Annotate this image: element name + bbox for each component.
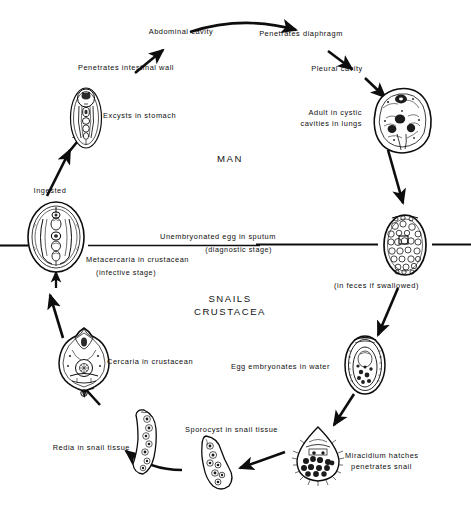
metacercaria-figure	[28, 202, 84, 272]
host-label-snails-crustacea: SNAILS CRUSTACEA	[180, 292, 280, 318]
sporocyst-figure	[202, 436, 232, 489]
arrow-to-metacercaria	[50, 295, 63, 338]
label-penetrates-intestinal-wall: Penetrates intestinal wall	[60, 63, 192, 74]
arrow-to-adult-lungs	[365, 78, 385, 97]
arrow-to-embryonating-egg	[378, 288, 398, 335]
arrow-to-egg	[388, 150, 403, 203]
label-adult-in-cystic-cavities: Adult in cystic cavities in lungs	[258, 108, 362, 129]
label-unembryonated-egg: Unembryonated egg in sputum (diagnostic …	[160, 232, 272, 255]
excysted-fluke-figure	[71, 88, 102, 148]
label-metacercaria: Metacercaria in crustacean (infective st…	[86, 255, 189, 278]
label-excysts-in-stomach: Excysts in stomach	[103, 111, 176, 122]
label-in-feces-if-swallowed: (in feces if swallowed)	[334, 281, 419, 292]
cercaria-figure	[59, 328, 109, 396]
label-sporocyst: Sporocyst in snail tissue	[185, 425, 278, 436]
label-penetrates-diaphragm: Penetrates diaphragm	[245, 29, 357, 40]
label-redia: Redia in snail tissue	[20, 443, 130, 454]
arrow-to-miracidium	[334, 394, 354, 425]
label-miracidium-line2: penetrates snail	[351, 462, 419, 473]
adult-in-cyst-figure	[374, 89, 431, 153]
label-unembryonated-egg-line1: Unembryonated egg in sputum	[160, 232, 272, 243]
cycle-illustration-svg	[0, 0, 471, 515]
label-miracidium-line1: Miracidium hatches	[345, 451, 419, 462]
label-cercaria: Cercaria in crustacean	[107, 357, 193, 368]
host-label-snails: SNAILS	[180, 292, 280, 305]
host-label-man: MAN	[180, 152, 280, 165]
label-egg-embryonates: Egg embryonates in water	[218, 362, 330, 373]
miracidium-figure	[292, 427, 344, 486]
embryonating-egg-figure	[345, 336, 385, 394]
label-diagnostic-stage: (diagnostic stage)	[160, 245, 272, 256]
label-miracidium: Miracidium hatches penetrates snail	[345, 451, 419, 472]
label-pleural-cavity: Pleural cavity	[298, 64, 376, 75]
arrow-to-sporocyst	[240, 452, 285, 468]
label-ingested: Ingested	[18, 186, 82, 197]
label-abdominal-cavity: Abdominal cavity	[138, 27, 224, 38]
unembryonated-egg-figure	[384, 215, 426, 275]
host-label-crustacea: CRUSTACEA	[180, 305, 280, 318]
label-adult-line1: Adult in cystic	[258, 108, 362, 119]
label-infective-stage: (infective stage)	[96, 268, 189, 279]
life-cycle-diagram: Abdominal cavity Penetrates diaphragm Pe…	[0, 0, 471, 515]
label-adult-line2: cavities in lungs	[258, 119, 362, 130]
label-metacercaria-line1: Metacercaria in crustacean	[86, 255, 189, 266]
